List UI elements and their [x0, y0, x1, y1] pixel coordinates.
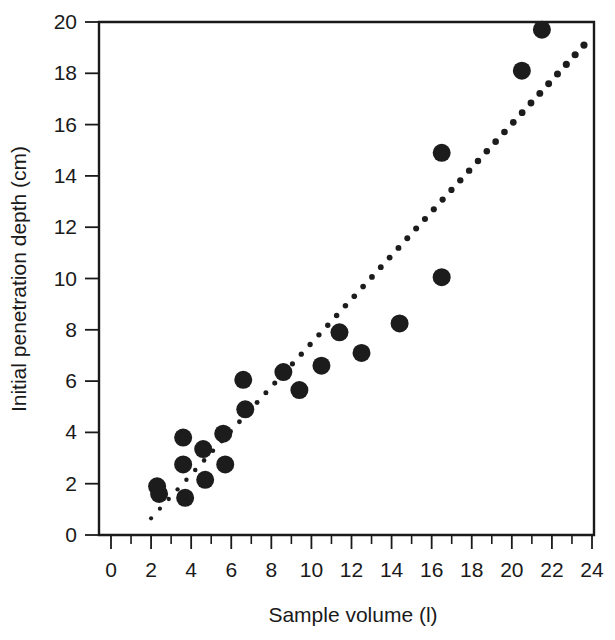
- x-axis-tick-labels: 024681012141618202224: [105, 558, 604, 581]
- data-point: [236, 400, 254, 418]
- y-tick-label: 10: [54, 267, 77, 290]
- data-point: [312, 357, 330, 375]
- trend-line-dot: [290, 361, 295, 366]
- data-point: [353, 344, 371, 362]
- y-tick-label: 20: [54, 10, 77, 33]
- trend-line-dot: [475, 158, 481, 164]
- x-tick-label: 10: [300, 558, 323, 581]
- trend-line-dot: [404, 235, 410, 241]
- x-tick-label: 18: [460, 558, 483, 581]
- trend-line-dot: [369, 274, 375, 280]
- x-tick-label: 20: [500, 558, 523, 581]
- trend-line-dot: [484, 148, 491, 155]
- data-point: [513, 62, 531, 80]
- trend-line-dot: [413, 226, 419, 232]
- trend-line-dot: [501, 129, 508, 136]
- trend-line-dot: [422, 216, 428, 222]
- data-point: [433, 268, 451, 286]
- x-tick-label: 6: [225, 558, 237, 581]
- x-tick-label: 4: [185, 558, 197, 581]
- trend-line-dot: [387, 255, 393, 261]
- data-point: [174, 429, 192, 447]
- y-tick-label: 4: [65, 420, 77, 443]
- trend-line-dot: [519, 109, 526, 116]
- trend-line-dot: [202, 458, 207, 463]
- data-point: [330, 323, 348, 341]
- data-point: [274, 363, 292, 381]
- data-point: [176, 489, 194, 507]
- x-axis-title: Sample volume (l): [268, 603, 437, 626]
- trend-line-dot: [545, 80, 552, 87]
- trend-line-dot: [378, 264, 384, 270]
- trend-line-dot: [237, 419, 242, 424]
- data-point: [150, 485, 168, 503]
- trend-line-dot: [255, 400, 260, 405]
- trend-line-dot: [563, 61, 570, 68]
- y-tick-label: 12: [54, 215, 77, 238]
- trend-line-dot: [448, 187, 454, 193]
- trend-line-dot: [263, 390, 268, 395]
- data-point: [214, 425, 232, 443]
- trend-line-dot: [334, 313, 339, 318]
- y-axis-title: Initial penetration depth (cm): [7, 146, 30, 412]
- data-points: [148, 21, 551, 507]
- x-tick-label: 8: [265, 558, 277, 581]
- trend-line-dot: [316, 332, 321, 337]
- y-tick-label: 6: [65, 369, 77, 392]
- trend-line-dot: [307, 342, 312, 347]
- x-tick-label: 12: [340, 558, 363, 581]
- trend-line-dot: [272, 381, 277, 386]
- trend-line-dot: [175, 487, 179, 491]
- trend-line-dot: [395, 245, 401, 251]
- data-point: [194, 440, 212, 458]
- plot-border: [99, 22, 594, 535]
- y-tick-label: 14: [54, 164, 78, 187]
- plot-frame: [99, 22, 594, 535]
- y-axis-ticks: [85, 22, 99, 535]
- trend-line-dot: [193, 468, 198, 473]
- trend-line-dot: [431, 206, 437, 212]
- y-tick-label: 0: [65, 523, 77, 546]
- trend-line-dot: [149, 516, 153, 520]
- trend-line-dot: [299, 352, 304, 357]
- x-tick-label: 2: [145, 558, 157, 581]
- data-point: [216, 455, 234, 473]
- trend-line-dot: [572, 51, 579, 58]
- y-tick-label: 8: [65, 318, 77, 341]
- y-tick-label: 16: [54, 113, 77, 136]
- trend-line-dot: [580, 41, 587, 48]
- scatter-plot-figure: 024681012141618202224 02468101214161820 …: [0, 0, 615, 640]
- trend-line-dot: [158, 507, 162, 511]
- trend-line-dot: [466, 167, 472, 173]
- data-point: [174, 455, 192, 473]
- trend-line-dot: [457, 177, 463, 183]
- trend-line-dot: [325, 322, 330, 327]
- trend-line-dot: [184, 477, 188, 481]
- y-tick-label: 18: [54, 61, 77, 84]
- x-tick-label: 22: [540, 558, 563, 581]
- trend-line-dot: [351, 293, 357, 299]
- x-axis-ticks: [111, 535, 592, 549]
- data-point: [290, 381, 308, 399]
- y-axis-tick-labels: 02468101214161820: [54, 10, 78, 546]
- trend-line-dot: [510, 119, 517, 126]
- trend-line-dot: [528, 100, 535, 107]
- plot-canvas: 024681012141618202224 02468101214161820 …: [0, 0, 615, 640]
- trend-line-dot: [492, 138, 499, 145]
- x-tick-label: 16: [420, 558, 443, 581]
- data-point: [433, 144, 451, 162]
- x-tick-label: 14: [380, 558, 404, 581]
- x-tick-label: 0: [105, 558, 117, 581]
- trend-line-dot: [343, 303, 349, 309]
- trend-line-dot: [440, 197, 446, 203]
- trend-line-dot: [536, 90, 543, 97]
- trend-line-dot: [360, 284, 366, 290]
- data-point: [234, 371, 252, 389]
- y-tick-label: 2: [65, 472, 77, 495]
- data-point: [533, 21, 551, 39]
- data-point: [196, 471, 214, 489]
- data-point: [391, 314, 409, 332]
- x-tick-label: 24: [580, 558, 604, 581]
- trend-line-dot: [554, 71, 561, 78]
- trend-line-dotted: [149, 41, 588, 520]
